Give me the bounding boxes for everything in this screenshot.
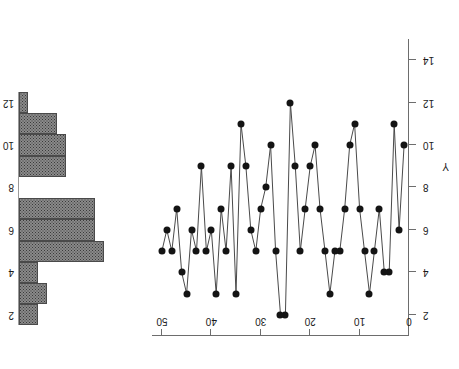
histogram-bar — [19, 198, 95, 219]
histogram-bar — [19, 92, 28, 113]
data-point — [183, 290, 190, 297]
data-point — [312, 142, 319, 149]
run-chart-y-axis-label: Y — [442, 161, 449, 172]
data-point — [302, 205, 309, 212]
data-point — [331, 248, 338, 255]
y-tick-label: 8 — [423, 182, 429, 193]
histogram-bar — [19, 134, 66, 155]
data-point — [277, 311, 284, 318]
data-point — [208, 226, 215, 233]
data-point — [247, 226, 254, 233]
data-point — [326, 290, 333, 297]
data-point — [366, 290, 373, 297]
data-point — [257, 205, 264, 212]
data-point — [321, 248, 328, 255]
data-point — [193, 248, 200, 255]
histogram-bar — [19, 283, 47, 304]
histogram-bar — [19, 113, 57, 134]
data-point — [341, 205, 348, 212]
data-point — [242, 163, 249, 170]
data-point — [401, 142, 408, 149]
y-tick-label: 12 — [423, 97, 434, 108]
histogram-bar — [19, 219, 95, 240]
data-point — [228, 163, 235, 170]
histogram-bar — [19, 156, 66, 177]
histogram-tick-label: 10 — [3, 140, 14, 151]
histogram-bar — [19, 262, 38, 283]
y-tick — [409, 144, 416, 145]
histogram-bar — [19, 241, 104, 262]
y-tick — [409, 59, 416, 60]
y-tick-label: 10 — [423, 140, 434, 151]
y-tick — [409, 102, 416, 103]
data-point — [351, 120, 358, 127]
histogram-tick-label: 4 — [8, 267, 14, 278]
y-tick — [409, 229, 416, 230]
data-point — [396, 226, 403, 233]
histogram-bar — [19, 304, 38, 325]
data-point — [361, 248, 368, 255]
y-tick-label: 6 — [423, 224, 429, 235]
data-point — [158, 248, 165, 255]
histogram-tick-label: 8 — [8, 182, 14, 193]
data-point — [188, 226, 195, 233]
data-point — [376, 205, 383, 212]
data-point — [233, 290, 240, 297]
data-point — [163, 226, 170, 233]
data-point — [168, 248, 175, 255]
y-tick — [409, 271, 416, 272]
data-point — [262, 184, 269, 191]
histogram-tick-label: 6 — [8, 224, 14, 235]
data-point — [381, 269, 388, 276]
data-point — [356, 205, 363, 212]
data-point — [272, 248, 279, 255]
data-point — [267, 142, 274, 149]
data-point — [223, 248, 230, 255]
data-point — [178, 269, 185, 276]
data-point — [213, 290, 220, 297]
data-point — [237, 120, 244, 127]
rotated-figure-container: 01020304050 2468101214 Y 24681012 — [0, 0, 459, 369]
histogram-tick-label: 2 — [8, 309, 14, 320]
data-point — [218, 205, 225, 212]
histogram-tick-label: 12 — [3, 97, 14, 108]
run-chart-panel: 01020304050 2468101214 Y — [152, 36, 409, 336]
data-point — [317, 205, 324, 212]
data-point — [297, 248, 304, 255]
data-point — [173, 205, 180, 212]
histogram-panel: 24681012 — [13, 36, 108, 336]
y-tick-label: 2 — [423, 309, 429, 320]
data-point — [252, 248, 259, 255]
y-tick — [409, 187, 416, 188]
data-point — [391, 120, 398, 127]
data-point — [292, 163, 299, 170]
data-point — [203, 248, 210, 255]
y-tick — [409, 314, 416, 315]
data-point — [371, 248, 378, 255]
data-point — [198, 163, 205, 170]
data-point — [346, 142, 353, 149]
figure-root: 01020304050 2468101214 Y 24681012 — [0, 0, 459, 369]
data-point — [307, 163, 314, 170]
data-point — [287, 99, 294, 106]
y-tick-label: 14 — [423, 55, 434, 66]
y-tick-label: 4 — [423, 267, 429, 278]
